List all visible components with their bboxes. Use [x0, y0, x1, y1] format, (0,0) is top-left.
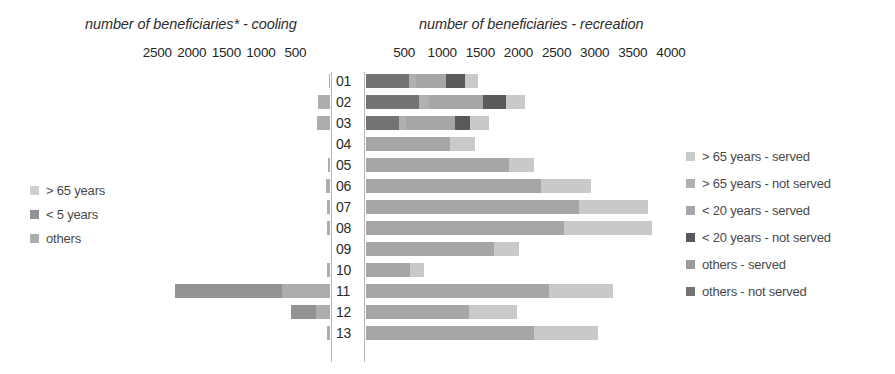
category-label: 10 — [336, 262, 364, 279]
bar-segment-recreation — [579, 200, 648, 214]
bar-segment-recreation — [366, 242, 494, 256]
bar-segment-recreation — [506, 95, 524, 109]
x-tick-recreation-1500: 1500 — [466, 45, 495, 60]
x-tick-cooling-2000: 2000 — [177, 45, 206, 60]
bar-segment-cooling — [318, 95, 330, 109]
bar-segment-recreation — [366, 200, 579, 214]
bar-segment-recreation — [549, 284, 613, 298]
bar-segment-recreation — [406, 116, 456, 130]
bar-segment-recreation — [494, 242, 519, 256]
category-label: 07 — [336, 199, 364, 216]
legend-recreation: > 65 years - served> 65 years - not serv… — [686, 143, 831, 305]
bar-segment-cooling — [328, 158, 330, 172]
bar-segment-cooling — [175, 284, 282, 298]
x-tick-recreation-4000: 4000 — [656, 45, 685, 60]
bar-row: 01 — [0, 72, 895, 93]
legend-recreation-label: < 20 years - not served — [702, 230, 831, 245]
bar-segment-recreation — [469, 305, 517, 319]
chart-canvas: number of beneficiaries* - cooling numbe… — [0, 0, 895, 374]
category-label: 11 — [336, 283, 364, 300]
legend-cooling: > 65 years< 5 yearsothers — [30, 178, 105, 250]
category-label: 09 — [336, 241, 364, 258]
x-tick-recreation-2500: 2500 — [542, 45, 571, 60]
bar-row: 12 — [0, 303, 895, 324]
legend-swatch-icon — [686, 287, 695, 296]
category-label: 03 — [336, 115, 364, 132]
category-label: 01 — [336, 73, 364, 90]
legend-cooling-label: others — [46, 231, 81, 246]
chart-title-recreation: number of beneficiaries - recreation — [419, 16, 644, 32]
category-label: 08 — [336, 220, 364, 237]
chart-title-cooling: number of beneficiaries* - cooling — [85, 16, 297, 32]
legend-recreation-item[interactable]: others - not served — [686, 278, 831, 305]
legend-recreation-item[interactable]: > 65 years - served — [686, 143, 831, 170]
bar-segment-cooling — [327, 326, 330, 340]
bar-segment-recreation — [450, 137, 475, 151]
category-label: 13 — [336, 325, 364, 342]
bar-segment-recreation — [564, 221, 652, 235]
x-tick-cooling-1000: 1000 — [246, 45, 275, 60]
legend-recreation-label: others - not served — [702, 284, 807, 299]
bar-segment-recreation — [399, 116, 406, 130]
bar-row: 03 — [0, 114, 895, 135]
bar-segment-recreation — [366, 326, 534, 340]
legend-recreation-label: > 65 years - served — [702, 149, 810, 164]
bar-segment-recreation — [366, 158, 509, 172]
bar-segment-cooling — [326, 179, 330, 193]
bar-segment-recreation — [416, 74, 446, 88]
x-tick-cooling-1500: 1500 — [212, 45, 241, 60]
legend-swatch-icon — [686, 179, 695, 188]
legend-recreation-item[interactable]: < 20 years - served — [686, 197, 831, 224]
bar-segment-recreation — [366, 95, 419, 109]
x-tick-recreation-2000: 2000 — [504, 45, 533, 60]
bar-segment-recreation — [455, 116, 469, 130]
bar-segment-recreation — [541, 179, 591, 193]
x-tick-recreation-1000: 1000 — [428, 45, 457, 60]
legend-cooling-item[interactable]: > 65 years — [30, 178, 105, 202]
category-label: 04 — [336, 136, 364, 153]
bar-segment-recreation — [366, 284, 549, 298]
legend-cooling-item[interactable]: < 5 years — [30, 202, 105, 226]
legend-swatch-icon — [686, 233, 695, 242]
x-tick-recreation-3000: 3000 — [580, 45, 609, 60]
legend-recreation-label: > 65 years - not served — [702, 176, 831, 191]
bar-segment-cooling — [329, 74, 330, 88]
bar-segment-recreation — [366, 116, 399, 130]
legend-cooling-label: > 65 years — [46, 183, 105, 198]
x-tick-recreation-3500: 3500 — [618, 45, 647, 60]
bar-segment-cooling — [316, 305, 330, 319]
legend-swatch-icon — [30, 234, 39, 243]
category-label: 06 — [336, 178, 364, 195]
bar-segment-cooling — [327, 263, 330, 277]
bar-segment-recreation — [409, 74, 416, 88]
x-tick-recreation-500: 500 — [393, 45, 415, 60]
legend-recreation-item[interactable]: > 65 years - not served — [686, 170, 831, 197]
bar-row: 02 — [0, 93, 895, 114]
legend-swatch-icon — [686, 206, 695, 215]
bar-segment-recreation — [483, 95, 506, 109]
legend-recreation-label: < 20 years - served — [702, 203, 810, 218]
legend-recreation-item[interactable]: others - served — [686, 251, 831, 278]
x-tick-cooling-2500: 2500 — [143, 45, 172, 60]
bar-segment-cooling — [327, 200, 330, 214]
legend-swatch-icon — [30, 186, 39, 195]
bar-segment-recreation — [410, 263, 424, 277]
legend-cooling-item[interactable]: others — [30, 226, 105, 250]
bar-segment-cooling — [317, 116, 330, 130]
bar-segment-recreation — [366, 221, 564, 235]
legend-cooling-label: < 5 years — [46, 207, 98, 222]
bar-segment-recreation — [366, 263, 410, 277]
bar-segment-cooling — [327, 221, 330, 235]
x-tick-cooling-500: 500 — [284, 45, 306, 60]
bar-segment-cooling — [282, 284, 330, 298]
category-label: 12 — [336, 304, 364, 321]
legend-swatch-icon — [686, 152, 695, 161]
bar-segment-recreation — [366, 74, 409, 88]
legend-swatch-icon — [686, 260, 695, 269]
bar-segment-recreation — [366, 137, 450, 151]
bar-row: 13 — [0, 324, 895, 345]
legend-recreation-item[interactable]: < 20 years - not served — [686, 224, 831, 251]
bar-segment-recreation — [446, 74, 465, 88]
bar-segment-recreation — [509, 158, 534, 172]
bar-segment-recreation — [419, 95, 428, 109]
